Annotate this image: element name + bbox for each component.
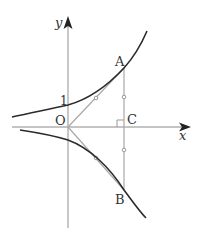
y-intercept-label: 1 — [60, 94, 68, 108]
tick-mark-cb — [122, 148, 126, 152]
point-a-label: A — [114, 54, 125, 69]
y-axis-label: y — [54, 15, 63, 30]
origin-label: O — [55, 113, 66, 128]
tick-mark-oa — [94, 96, 98, 100]
point-b-label: B — [115, 192, 125, 207]
upper-curve — [12, 31, 147, 117]
tick-mark-ac — [122, 95, 126, 99]
point-c-label: C — [127, 112, 137, 127]
right-angle-marker — [117, 120, 124, 127]
diagram-canvas: y x O 1 A C B — [0, 0, 202, 235]
x-axis-label: x — [179, 128, 187, 143]
